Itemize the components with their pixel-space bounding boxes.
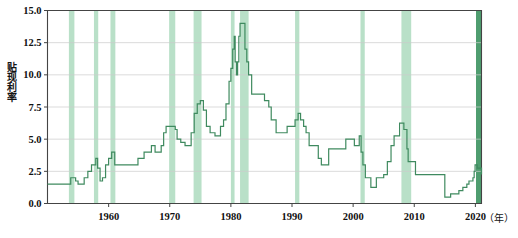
y-tick-label: 15.0 bbox=[23, 5, 41, 16]
x-tick-label: 1990 bbox=[282, 211, 303, 222]
y-tick-label: 0.0 bbox=[28, 198, 41, 209]
x-tick-label: 2010 bbox=[404, 211, 425, 222]
x-tick-label: 2020 bbox=[465, 211, 486, 222]
y-tick-label: 10.0 bbox=[23, 69, 41, 80]
y-tick-label: 7.5 bbox=[28, 102, 41, 113]
y-tick-label: 12.5 bbox=[23, 37, 41, 48]
x-tick-labels: 1960197019801990200020102020 bbox=[98, 211, 486, 222]
y-tick-labels: 0.02.55.07.510.012.515.0 bbox=[23, 5, 41, 209]
x-tick-label: 1960 bbox=[98, 211, 119, 222]
discount-rate-figure: 贴现利率 0.02.55.07.510.012.515.0 1960197019… bbox=[0, 0, 518, 238]
x-axis-unit-label: （年） bbox=[484, 212, 514, 224]
chart-plot-area: 0.02.55.07.510.012.515.0 196019701980199… bbox=[0, 0, 518, 238]
x-tick-label: 2000 bbox=[343, 211, 364, 222]
y-tick-label: 2.5 bbox=[28, 166, 41, 177]
y-tick-label: 5.0 bbox=[28, 134, 41, 145]
x-tick-label: 1980 bbox=[220, 211, 241, 222]
x-tick-label: 1970 bbox=[159, 211, 180, 222]
y-axis-label: 贴现利率 bbox=[2, 62, 16, 102]
figure-caption bbox=[0, 228, 518, 238]
